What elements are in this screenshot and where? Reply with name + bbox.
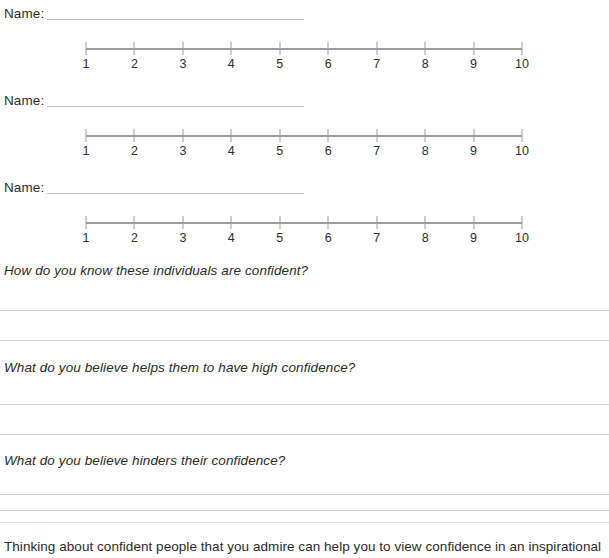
scale-tick[interactable] bbox=[328, 42, 329, 55]
confidence-scale: 1 2 3 4 5 6 7 8 9 10 bbox=[86, 38, 522, 72]
scale-tick-label: 3 bbox=[168, 231, 198, 245]
name-row: Name: bbox=[4, 6, 304, 22]
question-prompt-2: What do you believe helps them to have h… bbox=[4, 360, 355, 376]
scale-tick[interactable] bbox=[134, 129, 135, 142]
name-label: Name: bbox=[4, 93, 44, 109]
footer-paragraph: Thinking about confident people that you… bbox=[4, 538, 606, 555]
scale-tick[interactable] bbox=[473, 129, 474, 142]
scale-axis bbox=[86, 48, 522, 50]
scale-tick[interactable] bbox=[86, 129, 87, 142]
scale-tick-label: 10 bbox=[507, 144, 537, 158]
scale-tick[interactable] bbox=[279, 129, 280, 142]
answer-line[interactable] bbox=[0, 340, 609, 341]
answer-line[interactable] bbox=[0, 434, 609, 435]
scale-tick-label: 7 bbox=[362, 231, 392, 245]
confidence-scale: 1 2 3 4 5 6 7 8 9 10 bbox=[86, 125, 522, 159]
confidence-scale: 1 2 3 4 5 6 7 8 9 10 bbox=[86, 212, 522, 246]
scale-tick-label: 3 bbox=[168, 144, 198, 158]
scale-tick[interactable] bbox=[134, 216, 135, 229]
scale-tick-label: 3 bbox=[168, 57, 198, 71]
scale-tick[interactable] bbox=[279, 42, 280, 55]
scale-tick[interactable] bbox=[134, 42, 135, 55]
scale-tick-label: 9 bbox=[459, 57, 489, 71]
scale-tick-label: 2 bbox=[119, 57, 149, 71]
scale-tick-label: 5 bbox=[265, 231, 295, 245]
scale-tick[interactable] bbox=[425, 129, 426, 142]
scale-tick[interactable] bbox=[376, 129, 377, 142]
name-label: Name: bbox=[4, 6, 44, 22]
scale-tick-label: 7 bbox=[362, 144, 392, 158]
scale-tick-label: 8 bbox=[410, 57, 440, 71]
name-label: Name: bbox=[4, 180, 44, 196]
answer-line[interactable] bbox=[0, 494, 609, 495]
scale-tick[interactable] bbox=[522, 129, 523, 142]
scale-axis bbox=[86, 222, 522, 224]
scale-tick-label: 7 bbox=[362, 57, 392, 71]
name-input-line[interactable] bbox=[47, 106, 304, 107]
scale-tick-label: 6 bbox=[313, 231, 343, 245]
scale-tick-label: 4 bbox=[216, 231, 246, 245]
scale-tick[interactable] bbox=[231, 129, 232, 142]
scale-tick[interactable] bbox=[182, 216, 183, 229]
name-input-line[interactable] bbox=[47, 19, 304, 20]
scale-tick[interactable] bbox=[182, 42, 183, 55]
name-row: Name: bbox=[4, 93, 304, 109]
scale-tick-label: 4 bbox=[216, 144, 246, 158]
scale-tick-label: 2 bbox=[119, 231, 149, 245]
answer-line[interactable] bbox=[0, 404, 609, 405]
answer-line[interactable] bbox=[0, 310, 609, 311]
question-prompt-1: How do you know these individuals are co… bbox=[4, 263, 308, 279]
section-divider bbox=[0, 522, 609, 523]
scale-tick[interactable] bbox=[376, 42, 377, 55]
scale-axis bbox=[86, 135, 522, 137]
scale-tick[interactable] bbox=[522, 42, 523, 55]
scale-tick[interactable] bbox=[328, 129, 329, 142]
scale-tick[interactable] bbox=[473, 42, 474, 55]
scale-tick[interactable] bbox=[425, 42, 426, 55]
scale-tick[interactable] bbox=[473, 216, 474, 229]
name-input-line[interactable] bbox=[47, 193, 304, 194]
scale-tick[interactable] bbox=[231, 42, 232, 55]
scale-tick-label: 1 bbox=[71, 57, 101, 71]
scale-tick[interactable] bbox=[522, 216, 523, 229]
question-prompt-3: What do you believe hinders their confid… bbox=[4, 453, 285, 469]
scale-tick-label: 1 bbox=[71, 144, 101, 158]
scale-tick-label: 5 bbox=[265, 144, 295, 158]
scale-tick-label: 10 bbox=[507, 231, 537, 245]
scale-tick[interactable] bbox=[86, 42, 87, 55]
scale-tick-label: 8 bbox=[410, 144, 440, 158]
scale-tick-label: 8 bbox=[410, 231, 440, 245]
scale-tick-label: 10 bbox=[507, 57, 537, 71]
scale-tick-label: 2 bbox=[119, 144, 149, 158]
scale-tick[interactable] bbox=[376, 216, 377, 229]
scale-tick-label: 9 bbox=[459, 144, 489, 158]
scale-tick-label: 4 bbox=[216, 57, 246, 71]
scale-tick[interactable] bbox=[182, 129, 183, 142]
answer-line[interactable] bbox=[0, 510, 609, 511]
scale-tick-label: 6 bbox=[313, 144, 343, 158]
scale-tick-label: 9 bbox=[459, 231, 489, 245]
scale-tick-label: 1 bbox=[71, 231, 101, 245]
scale-tick[interactable] bbox=[425, 216, 426, 229]
scale-tick[interactable] bbox=[328, 216, 329, 229]
scale-tick[interactable] bbox=[279, 216, 280, 229]
scale-tick[interactable] bbox=[231, 216, 232, 229]
scale-tick-label: 6 bbox=[313, 57, 343, 71]
scale-tick[interactable] bbox=[86, 216, 87, 229]
scale-tick-label: 5 bbox=[265, 57, 295, 71]
name-row: Name: bbox=[4, 180, 304, 196]
